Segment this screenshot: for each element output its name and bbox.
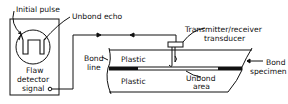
bond-specimen-label-2: specimen xyxy=(250,67,287,76)
bond-inspection-diagram: Initial pulse Unbond echo Flaw detector … xyxy=(0,0,288,104)
waveform-trace xyxy=(19,34,46,54)
unbond-echo-label: Unbond echo xyxy=(72,12,123,21)
bond-line-label-1: Bond xyxy=(84,54,104,63)
flaw-detector-label-1: Flaw xyxy=(26,66,43,75)
plastic-bottom-label: Plastic xyxy=(121,77,146,86)
signal-connector-icon xyxy=(48,87,52,91)
unbond-area-label-2: area xyxy=(193,82,210,91)
initial-pulse-label: Initial pulse xyxy=(16,5,60,14)
flaw-detector-label-3: signal xyxy=(22,84,44,93)
bond-line-label-2: line xyxy=(87,63,101,72)
initial-pulse-leader xyxy=(13,11,21,34)
flaw-detector-label-2: detector xyxy=(17,75,50,84)
transducer-icon xyxy=(168,42,183,47)
bond-specimen-label-1: Bond xyxy=(266,58,286,67)
plastic-top-label: Plastic xyxy=(121,55,146,64)
left-break-edge xyxy=(107,48,111,94)
signal-cable xyxy=(52,35,176,89)
transducer-label-1: Transmitter/receiver xyxy=(184,25,263,34)
unbond-echo-leader xyxy=(44,17,70,40)
transducer-label-2: transducer xyxy=(204,34,246,43)
